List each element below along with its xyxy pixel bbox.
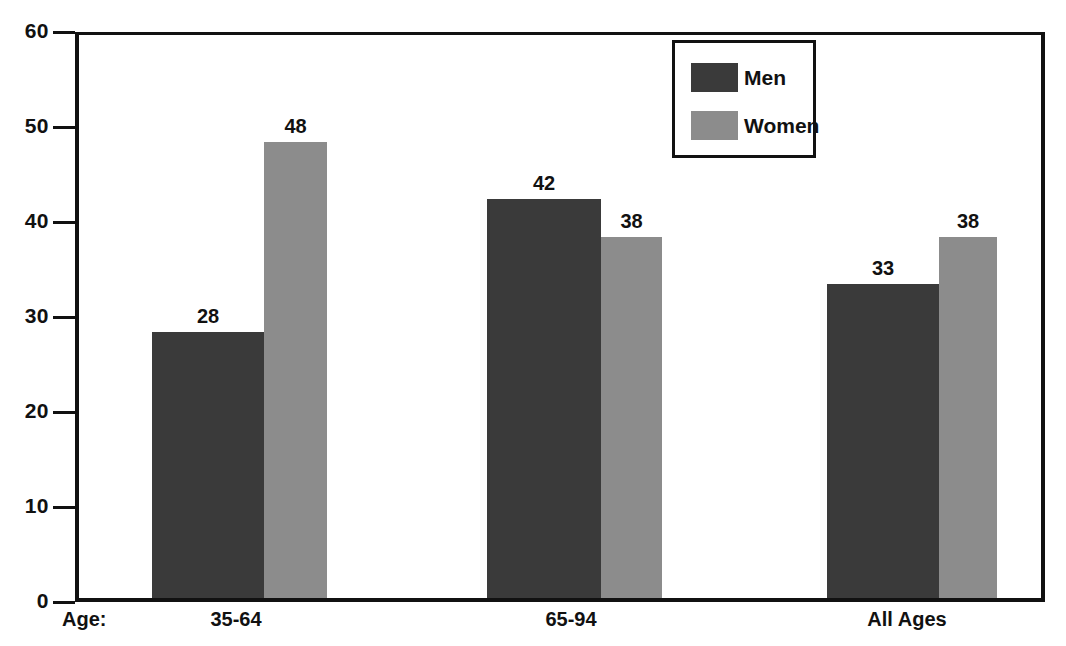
- y-tick-label-20: 20: [25, 400, 49, 421]
- y-tick-label-50: 50: [25, 115, 49, 136]
- bar-men-all-ages[interactable]: [827, 284, 939, 598]
- bar-women-35-64[interactable]: [264, 142, 327, 598]
- x-label-65-94: 65-94: [483, 608, 659, 630]
- y-tick-mark-10: [53, 506, 75, 509]
- y-tick-label-60: 60: [25, 20, 49, 41]
- x-label-35-64: 35-64: [146, 608, 326, 630]
- legend-label-women: Women: [744, 115, 819, 136]
- chart-page: 60 50 40 30 20 10 0: [0, 0, 1066, 646]
- bar-value-women-35-64: 48: [264, 116, 327, 136]
- bar-value-women-65-94: 38: [601, 211, 662, 231]
- y-tick-mark-20: [53, 411, 75, 414]
- y-tick-mark-50: [53, 126, 75, 129]
- bar-value-men-all-ages: 33: [827, 258, 939, 278]
- bar-value-women-all-ages: 38: [939, 211, 997, 231]
- y-tick-mark-40: [53, 221, 75, 224]
- y-tick-label-30: 30: [25, 305, 49, 326]
- y-tick-label-40: 40: [25, 210, 49, 231]
- y-tick-label-0: 0: [37, 590, 49, 611]
- legend-swatch-women-icon: [691, 111, 738, 140]
- y-tick-mark-60: [53, 31, 75, 34]
- legend-item-men[interactable]: Men: [691, 63, 786, 92]
- bar-value-men-65-94: 42: [487, 173, 601, 193]
- legend[interactable]: Men Women: [672, 40, 816, 158]
- legend-item-women[interactable]: Women: [691, 111, 819, 140]
- x-axis-caption: Age:: [62, 608, 106, 630]
- legend-label-men: Men: [744, 67, 786, 88]
- bar-women-all-ages[interactable]: [939, 237, 997, 598]
- legend-swatch-men-icon: [691, 63, 738, 92]
- y-tick-mark-30: [53, 316, 75, 319]
- bar-women-65-94[interactable]: [601, 237, 662, 598]
- bar-men-35-64[interactable]: [152, 332, 264, 598]
- x-label-all-ages: All Ages: [821, 608, 993, 630]
- y-tick-label-10: 10: [25, 495, 49, 516]
- bar-men-65-94[interactable]: [487, 199, 601, 598]
- y-tick-mark-0: [53, 601, 75, 604]
- plot-area: 28 48 42 38 33 38: [75, 32, 1045, 602]
- bar-value-men-35-64: 28: [152, 306, 264, 326]
